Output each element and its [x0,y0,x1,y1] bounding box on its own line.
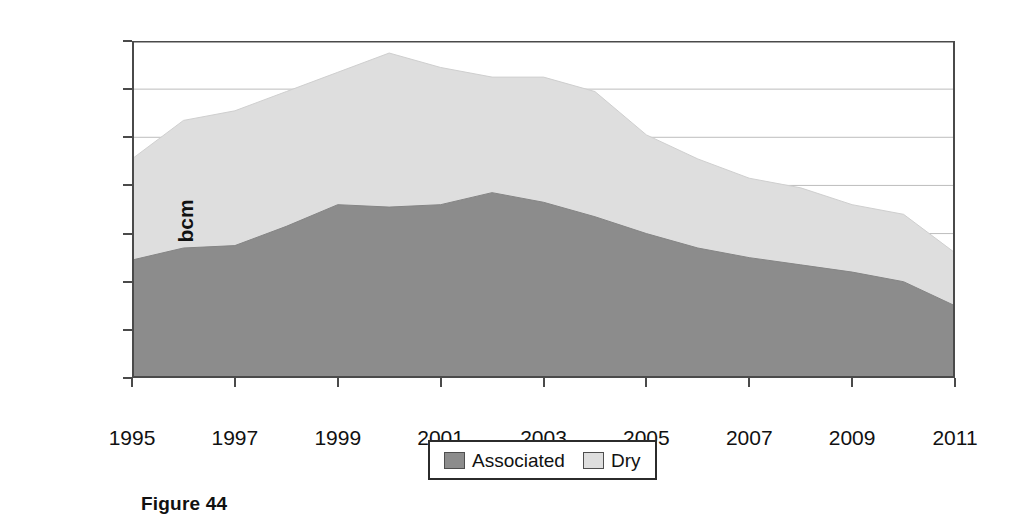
legend-label-associated: Associated [472,451,565,470]
legend-label-dry: Dry [611,451,641,470]
x-tick-label: 2007 [704,427,794,448]
x-tick-mark [645,378,647,387]
x-tick-mark [234,378,236,387]
x-tick-label: 1999 [293,427,383,448]
x-tick-mark [748,378,750,387]
x-tick-mark [131,378,133,387]
chart-legend: Associated Dry [428,440,657,480]
legend-swatch-associated [444,452,465,469]
y-tick-mark [123,281,132,283]
y-tick-mark [123,88,132,90]
legend-swatch-dry [583,452,604,469]
y-tick-mark [123,329,132,331]
figure-44: bcm 020406080100120140 19951997199920012… [0,0,1019,525]
x-tick-mark [954,378,956,387]
figure-caption: Figure 44 [141,493,227,515]
y-axis-title: bcm [174,161,198,281]
stacked-area-chart [132,41,955,378]
y-tick-mark [123,136,132,138]
x-tick-label: 1995 [87,427,177,448]
x-tick-label: 2009 [807,427,897,448]
x-tick-mark [337,378,339,387]
x-tick-mark [543,378,545,387]
x-tick-label: 2011 [910,427,1000,448]
y-tick-mark [123,233,132,235]
y-tick-mark [123,184,132,186]
y-tick-mark [123,40,132,42]
legend-entry-associated: Associated [444,451,565,470]
legend-entry-dry: Dry [583,451,641,470]
x-tick-label: 1997 [190,427,280,448]
x-tick-mark [440,378,442,387]
chart-plot-area: bcm 020406080100120140 19951997199920012… [132,41,955,378]
x-tick-mark [851,378,853,387]
